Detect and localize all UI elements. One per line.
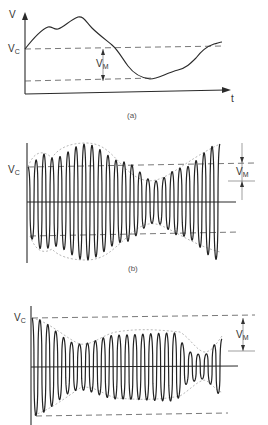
panel-a-vm-label: VM: [96, 58, 109, 70]
panel-a-y-label: V: [9, 9, 16, 20]
panel-a-x-axis: [25, 90, 226, 94]
vm-arrow-up-icon: [241, 318, 245, 324]
panel-c-vc-label: VC: [14, 312, 26, 324]
vm-arrow-down-icon: [101, 75, 105, 81]
panel-c: VC VM: [14, 306, 255, 425]
panel-a-signal-curve: [25, 17, 222, 79]
panel-b-lower-envelope: [30, 224, 220, 260]
panel-c-vm-label: VM: [236, 329, 249, 341]
x-axis-arrow-icon: [222, 87, 231, 93]
modulation-diagram: V t VC VM (a) VC VM (b): [0, 0, 268, 425]
panel-c-vc-top-line: [32, 315, 255, 318]
panel-b-caption: (b): [128, 264, 138, 273]
panel-a-caption: (a): [127, 111, 137, 120]
panel-a-vc-line: [25, 46, 225, 49]
vm-arrow-down-icon: [241, 345, 245, 351]
panel-b: VC VM (b): [8, 143, 255, 273]
panel-b-vc-label: VC: [8, 164, 20, 176]
panel-a-vc-label: VC: [8, 43, 20, 55]
vm-arrow-down-icon: [240, 157, 244, 163]
panel-a-vm-line: [25, 78, 155, 81]
vm-arrow-up-icon: [101, 49, 105, 55]
y-axis-arrow-icon: [22, 12, 28, 20]
panel-c-lower-envelope: [34, 380, 222, 415]
panel-a-x-label: t: [231, 93, 234, 104]
panel-a: V t VC VM (a): [8, 9, 234, 120]
panel-b-vc-top-line: [28, 163, 255, 167]
vm-arrow-up-icon: [240, 181, 244, 187]
panel-c-vc-bottom-line: [36, 413, 228, 416]
panel-b-vm-label: VM: [236, 166, 249, 178]
